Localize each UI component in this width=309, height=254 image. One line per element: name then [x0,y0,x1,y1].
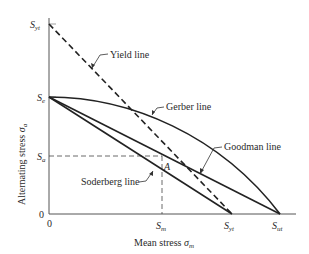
gerber-leader [152,107,164,115]
x-tick-syt: Syt [224,220,235,233]
soderberg-line-label: Soderberg line [81,176,140,187]
yield-line-label: Yield line [110,49,150,60]
yield-leader [92,54,108,68]
x-tick-sm: Sm [156,220,166,233]
y-tick-se: Se [37,92,45,105]
y-tick-sa: Sa [37,151,46,164]
y-tick-syt: Syt [30,19,41,32]
fatigue-diagram: A Yield line Gerber line Goodman line So… [0,0,309,254]
goodman-line-label: Goodman line [224,141,281,152]
y-origin-label: 0 [39,209,44,220]
y-axis-title: Alternating stress σa [16,123,29,205]
goodman-arrow-icon [200,168,204,174]
x-tick-sut: Sut [272,220,284,233]
goodman-line [49,97,280,214]
point-a-label: A [163,161,171,172]
x-origin-label: 0 [47,218,52,229]
gerber-line-label: Gerber line [166,101,212,112]
x-axis-title: Mean stress σm [134,237,194,250]
soderberg-line [49,97,232,214]
